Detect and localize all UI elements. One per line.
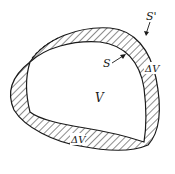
volume-shell-diagram: S' S V ΔV ΔV — [0, 0, 175, 174]
label-delta-v-bottom: ΔV — [70, 134, 87, 145]
label-volume-v: V — [95, 91, 105, 105]
diagram-canvas: S' S V ΔV ΔV — [0, 0, 175, 174]
label-s-prime: S' — [146, 10, 157, 23]
label-s: S — [103, 57, 111, 70]
label-delta-v-right: ΔV — [144, 63, 161, 74]
s-prime-arrow — [144, 22, 150, 36]
